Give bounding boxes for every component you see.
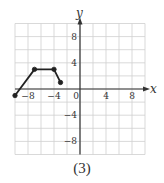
- axes: [15, 18, 150, 155]
- y-tick-label: −8: [64, 136, 78, 146]
- data-point: [13, 93, 17, 97]
- figure-caption: (3): [0, 160, 164, 177]
- x-tick-label: 4: [103, 91, 109, 101]
- y-tick-label: −4: [64, 110, 78, 120]
- x-axis-arrow-icon: [143, 87, 150, 92]
- data-point: [58, 80, 62, 84]
- x-tick-label: −8: [21, 91, 35, 101]
- x-axis-label: x: [150, 82, 157, 96]
- data-point: [52, 67, 56, 71]
- y-axis-label: y: [75, 6, 83, 20]
- y-tick-label: 8: [71, 32, 77, 42]
- x-tick-label: −4: [47, 91, 61, 101]
- graph-figure: −8−404884−4−8 x y (3): [0, 0, 164, 183]
- data-point: [32, 67, 36, 71]
- y-tick-label: 4: [71, 58, 77, 68]
- x-tick-label: 0: [73, 91, 79, 101]
- coordinate-plane: −8−404884−4−8 x y: [0, 0, 164, 160]
- x-tick-label: 8: [129, 91, 135, 101]
